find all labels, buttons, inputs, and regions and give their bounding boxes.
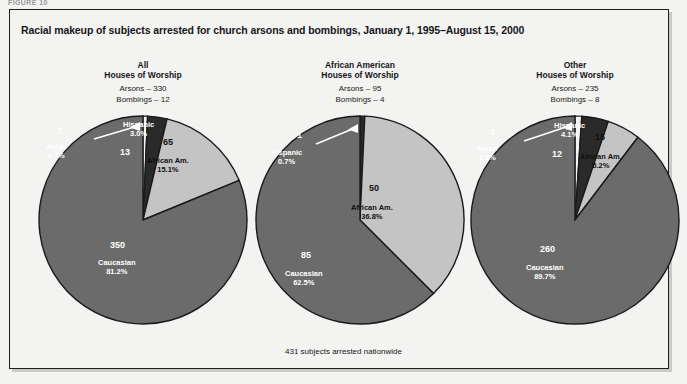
chart-header: Other Houses of Worship Arsons – 235 Bom… — [460, 60, 687, 106]
pie-chart-african-american: 1 Hispanic 0.7% 50 African Am. 36.8% 85 … — [245, 114, 475, 329]
pie-chart-other: 3 Asian 1.0% Hispanic 4.1% 12 15 African… — [460, 114, 687, 329]
chart-panel-all: All Houses of Worship Arsons – 330 Bombi… — [28, 60, 258, 329]
chart-header: African American Houses of Worship Arson… — [245, 60, 475, 106]
chart-title: Other — [460, 60, 687, 70]
chart-panel-african-american: African American Houses of Worship Arson… — [245, 60, 475, 329]
chart-title: African American — [245, 60, 475, 70]
pie-svg — [254, 114, 466, 326]
chart-footnote: 431 subjects arrested nationwide — [0, 347, 687, 356]
figure-label: FIGURE 10 — [8, 0, 48, 6]
stat-arsons: Arsons – 95 — [245, 84, 475, 95]
stat-arsons: Arsons – 330 — [28, 84, 258, 95]
stat-bombings: Bombings – 4 — [245, 95, 475, 106]
slice-caucasian — [471, 116, 679, 324]
stat-bombings: Bombings – 8 — [460, 95, 687, 106]
chart-subtitle: Houses of Worship — [245, 70, 475, 80]
chart-title: All — [28, 60, 258, 70]
stat-bombings: Bombings – 12 — [28, 95, 258, 106]
chart-panel-other: Other Houses of Worship Arsons – 235 Bom… — [460, 60, 687, 329]
chart-header: All Houses of Worship Arsons – 330 Bombi… — [28, 60, 258, 106]
pie-slices — [471, 116, 679, 324]
figure-page: FIGURE 10 Racial makeup of subjects arre… — [0, 0, 687, 384]
page-title: Racial makeup of subjects arrested for c… — [21, 24, 524, 36]
pie-svg — [469, 114, 681, 326]
stat-arsons: Arsons – 235 — [460, 84, 687, 95]
pie-slices — [39, 116, 247, 324]
pie-svg — [37, 114, 249, 326]
chart-subtitle: Houses of Worship — [460, 70, 687, 80]
pie-chart-all: 3 Asian 0.7% Hispanic 3.0% 13 65 African… — [28, 114, 258, 329]
pie-slices — [256, 116, 464, 324]
chart-subtitle: Houses of Worship — [28, 70, 258, 80]
